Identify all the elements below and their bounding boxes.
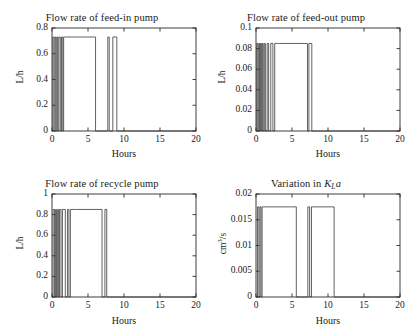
subplot-feed-in-pump: Flow rate of feed-in pump L/h Hours 00.2… (0, 0, 204, 166)
x-tick-label: 15 (349, 301, 379, 311)
y-tick-label: 0.04 (208, 85, 252, 95)
x-tick-label: 5 (73, 301, 103, 311)
figure-panel-grid: Flow rate of feed-in pump L/h Hours 00.2… (0, 0, 408, 333)
y-tick-label: 1 (4, 189, 48, 199)
x-tick-label: 20 (385, 301, 408, 311)
y-tick-label: 0.005 (208, 266, 252, 276)
subplot-recycle-pump: Flow rate of recycle pump L/h Hours 00.2… (0, 166, 204, 332)
y-tick-label: 0.02 (208, 189, 252, 199)
data-series-trace (256, 207, 400, 297)
x-tick-label: 15 (145, 301, 175, 311)
x-tick-label: 0 (241, 135, 271, 145)
x-tick-label: 10 (109, 301, 139, 311)
x-tick-label: 5 (73, 135, 103, 145)
y-tick-label: 0.8 (4, 23, 48, 33)
x-tick-label: 5 (277, 135, 307, 145)
y-tick-label: 0.6 (4, 230, 48, 240)
subplot-feed-out-pump: Flow rate of feed-out pump L/h Hours 00.… (204, 0, 408, 166)
x-axis-label: Hours (252, 148, 404, 159)
data-series-trace (52, 209, 196, 297)
y-tick-label: 0.1 (208, 23, 252, 33)
axes-frame (256, 194, 400, 297)
x-tick-label: 20 (385, 135, 408, 145)
data-series-trace (52, 37, 196, 131)
y-tick-label: 0.08 (208, 44, 252, 54)
x-tick-label: 15 (349, 135, 379, 145)
x-tick-label: 0 (37, 301, 67, 311)
y-tick-label: 0.4 (4, 75, 48, 85)
y-tick-label: 0.4 (4, 251, 48, 261)
data-series-trace (256, 43, 400, 131)
y-tick-label: 0.2 (4, 271, 48, 281)
y-tick-label: 0.01 (208, 241, 252, 251)
axes-frame (52, 28, 196, 131)
y-tick-label: 0.02 (208, 105, 252, 115)
subplot-kla-variation: Variation in KLa cm3/s Hours 00.0050.010… (204, 166, 408, 332)
x-tick-label: 10 (109, 135, 139, 145)
x-tick-label: 10 (313, 135, 343, 145)
y-tick-label: 0.06 (208, 64, 252, 74)
x-axis-label: Hours (48, 315, 200, 326)
y-tick-label: 0.2 (4, 100, 48, 110)
x-tick-label: 10 (313, 301, 343, 311)
x-tick-label: 0 (37, 135, 67, 145)
x-axis-label: Hours (48, 148, 200, 159)
x-tick-label: 0 (241, 301, 271, 311)
y-tick-label: 0.6 (4, 49, 48, 59)
x-tick-label: 15 (145, 135, 175, 145)
y-tick-label: 0.015 (208, 215, 252, 225)
x-axis-label: Hours (252, 315, 404, 326)
x-tick-label: 5 (277, 301, 307, 311)
y-tick-label: 0.8 (4, 210, 48, 220)
